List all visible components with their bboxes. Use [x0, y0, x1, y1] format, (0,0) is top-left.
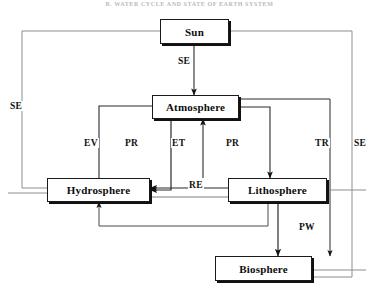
- connector-layer: [0, 0, 379, 296]
- node-biosphere-label: Biosphere: [239, 263, 288, 275]
- node-hydrosphere-label: Hydrosphere: [67, 184, 131, 196]
- node-hydrosphere[interactable]: Hydrosphere: [47, 178, 150, 202]
- node-sun-label: Sun: [185, 26, 204, 38]
- figure-canvas: B. WATER CYCLE AND STATE OF EARTH SYSTEM: [0, 0, 379, 296]
- node-sun[interactable]: Sun: [160, 19, 229, 44]
- edge-label-re: RE: [188, 180, 204, 190]
- node-atmosphere[interactable]: Atmosphere: [152, 95, 239, 119]
- figure-header-caption: B. WATER CYCLE AND STATE OF EARTH SYSTEM: [0, 1, 379, 7]
- edge-se-right-frame: [229, 31, 352, 277]
- edge-label-et: ET: [171, 138, 186, 148]
- edge-label-se-left: SE: [9, 101, 23, 111]
- edge-label-tr: TR: [314, 138, 330, 148]
- edge-lithosphere-to-hydrosphere-bottom-loop: [99, 202, 268, 226]
- edge-precipitation-atmosphere-to-hydrosphere: [150, 119, 171, 190]
- edge-label-ev: EV: [83, 138, 99, 148]
- edge-precipitation-atmosphere-to-lithosphere: [239, 107, 270, 178]
- node-biosphere[interactable]: Biosphere: [215, 256, 312, 281]
- edge-label-se-sun-atmosphere: SE: [177, 56, 191, 66]
- edge-label-pr-hydrosphere: PR: [124, 138, 139, 148]
- edge-label-se-right: SE: [353, 138, 367, 148]
- edge-se-left-frame: [22, 31, 160, 188]
- node-atmosphere-label: Atmosphere: [166, 101, 225, 113]
- edge-label-pr-lithosphere: PR: [225, 138, 240, 148]
- node-lithosphere-label: Lithosphere: [248, 184, 307, 196]
- node-lithosphere[interactable]: Lithosphere: [228, 178, 327, 202]
- edge-label-pw: PW: [298, 222, 316, 232]
